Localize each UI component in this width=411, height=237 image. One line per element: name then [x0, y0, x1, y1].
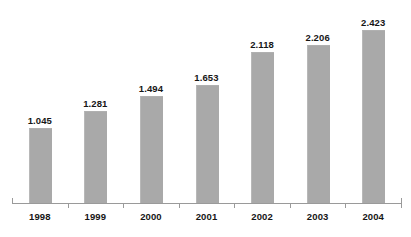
bar-rect: [29, 128, 52, 203]
bar-value-label-2002: 2.118: [250, 39, 274, 50]
x-axis-label-2001: 2001: [196, 211, 218, 222]
x-axis-start-cap: [12, 198, 13, 204]
x-axis-tick-2001: [234, 204, 235, 208]
bar-rect: [196, 85, 219, 203]
bar-value-label-2000: 1.494: [139, 83, 163, 94]
bar-2001[interactable]: [196, 86, 218, 203]
bar-1998[interactable]: [29, 129, 51, 203]
bar-rect: [362, 30, 385, 203]
x-axis-line: [12, 203, 401, 204]
x-axis-label-2003: 2003: [307, 211, 329, 222]
bar-value-label-2004: 2.423: [361, 17, 385, 28]
bar-1999[interactable]: [84, 112, 106, 203]
x-axis-tick-2000: [179, 204, 180, 208]
x-axis-label-2000: 2000: [140, 211, 162, 222]
plot-area: [0, 0, 411, 203]
bar-rect: [251, 52, 274, 203]
bar-2003[interactable]: [307, 46, 329, 203]
x-axis-tick-1998: [68, 204, 69, 208]
bar-rect: [307, 45, 330, 203]
bar-2002[interactable]: [251, 53, 273, 203]
bar-value-label-1998: 1.045: [28, 115, 52, 126]
x-axis-tick-1999: [123, 204, 124, 208]
x-axis-label-2002: 2002: [251, 211, 273, 222]
x-axis-tick-2003: [345, 204, 346, 208]
bar-value-label-2003: 2.206: [306, 32, 330, 43]
bar-rect: [84, 111, 107, 203]
x-axis-tick-2004: [401, 204, 402, 208]
bar-chart: 1.04519981.28119991.49420001.65320012.11…: [0, 0, 411, 237]
x-axis-label-1999: 1999: [85, 211, 107, 222]
bar-rect: [140, 96, 163, 203]
x-axis-tick-2002: [290, 204, 291, 208]
bar-2000[interactable]: [140, 97, 162, 203]
x-axis-label-1998: 1998: [29, 211, 51, 222]
bar-value-label-2001: 1.653: [194, 72, 218, 83]
x-axis-label-2004: 2004: [362, 211, 384, 222]
bar-2004[interactable]: [362, 31, 384, 203]
bar-value-label-1999: 1.281: [83, 98, 107, 109]
